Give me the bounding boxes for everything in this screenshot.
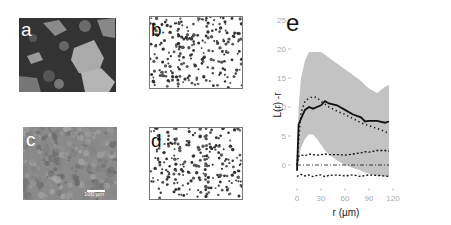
svg-text:120: 120: [386, 194, 400, 203]
lr-function-plot: 05101520250306090120 e r (µm) L(r) -r: [250, 0, 451, 225]
scale-bar-label: 100 µm: [84, 191, 104, 197]
svg-text:90: 90: [365, 194, 374, 203]
confidence-envelope: [297, 52, 389, 177]
panel-label-a: a: [21, 20, 32, 39]
svg-text:5: 5: [282, 132, 287, 141]
panel-label-e: e: [286, 9, 299, 36]
point-pattern-d: [150, 128, 242, 199]
svg-text:20: 20: [277, 45, 286, 54]
panel-label-b: b: [151, 20, 162, 39]
panel-label-d: d: [151, 131, 162, 150]
panel-d-point-pattern: d: [149, 127, 243, 200]
svg-text:0: 0: [282, 161, 287, 170]
x-axis-title: r (µm): [333, 207, 360, 218]
panel-label-c: c: [26, 130, 36, 149]
panel-c-micrograph: c 100 µm: [23, 127, 117, 200]
svg-text:15: 15: [277, 74, 286, 83]
panel-a-micrograph: a: [19, 18, 116, 92]
svg-text:60: 60: [341, 194, 350, 203]
y-axis-title: L(r) -r: [272, 92, 283, 118]
svg-text:0: 0: [295, 194, 300, 203]
panel-e-chart: 05101520250306090120 e r (µm) L(r) -r: [250, 0, 451, 225]
svg-text:30: 30: [317, 194, 326, 203]
point-pattern-b: [150, 17, 242, 88]
micrograph-a-image: [19, 18, 116, 92]
panel-b-point-pattern: b: [149, 16, 243, 89]
